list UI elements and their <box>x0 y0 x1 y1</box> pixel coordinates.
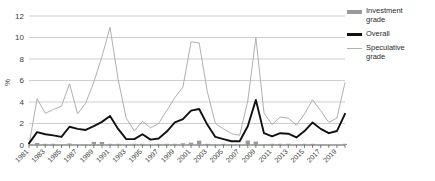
x-axis-tick-label: 1981 <box>14 148 30 164</box>
legend-item-investment-grade[interactable]: Investmentgrade <box>347 6 433 24</box>
data-bar <box>173 144 177 145</box>
x-axis-tick-label: 1997 <box>143 148 159 164</box>
chart-legend: Investmentgrade Overall Speculativegrade <box>347 6 433 66</box>
y-axis-tick-label: 2 <box>20 119 25 128</box>
x-axis-tick-label: 1985 <box>46 148 62 164</box>
data-bar <box>132 144 136 145</box>
x-axis-tick-label: 1995 <box>127 148 143 164</box>
x-axis-tick-label: 1993 <box>111 148 127 164</box>
data-bar <box>246 140 250 145</box>
x-axis-tick-label: 1989 <box>79 148 95 164</box>
x-axis-tick-label: 2003 <box>192 148 208 164</box>
legend-text-line1: Overall <box>366 29 390 38</box>
data-bar <box>156 144 160 145</box>
legend-text-line2: grade <box>366 15 385 24</box>
data-bar <box>343 144 347 145</box>
x-axis-tick-label: 2001 <box>176 148 192 164</box>
data-bar <box>205 144 209 145</box>
investment-grade-bars <box>35 140 347 145</box>
data-bar <box>92 142 96 145</box>
x-axis-tick-label: 2015 <box>289 148 305 164</box>
data-bar <box>100 142 104 145</box>
legend-item-speculative-grade[interactable]: Speculativegrade <box>347 43 433 61</box>
data-bar <box>108 144 112 145</box>
data-bar <box>302 144 306 145</box>
x-axis-tick-label: 1983 <box>30 148 46 164</box>
data-bar <box>270 144 274 145</box>
legend-item-overall[interactable]: Overall <box>347 29 433 38</box>
data-bar <box>181 143 185 145</box>
data-bar <box>35 143 39 145</box>
data-bar <box>43 144 47 145</box>
legend-label-speculative-grade: Speculativegrade <box>366 43 405 61</box>
x-axis-tick-label: 2017 <box>305 148 321 164</box>
legend-text-line2: grade <box>366 52 385 61</box>
y-axis-tick-label: 12 <box>15 12 24 21</box>
x-axis-tick-label: 1987 <box>62 148 78 164</box>
legend-text-line1: Speculative <box>366 43 405 52</box>
data-bar <box>286 144 290 145</box>
x-axis-tick-label: 2011 <box>257 148 273 164</box>
x-axis-tick-label: 1991 <box>95 148 111 164</box>
y-axis-tick-label: 4 <box>20 98 25 107</box>
speculative-grade-swatch-icon <box>347 48 362 49</box>
y-axis-tick-label: 10 <box>15 33 24 42</box>
x-axis-tick-label: 1999 <box>160 148 176 164</box>
chart-container: 024681012%198119831985198719891991199319… <box>0 0 435 181</box>
data-bar <box>116 144 120 145</box>
overall-line <box>29 100 345 144</box>
data-bar <box>254 142 258 145</box>
x-axis-tick-label: 2013 <box>273 148 289 164</box>
overall-swatch-icon <box>347 33 362 36</box>
x-axis-tick-label: 2009 <box>241 148 257 164</box>
legend-label-investment-grade: Investmentgrade <box>366 6 403 24</box>
y-axis-title: % <box>3 79 12 86</box>
legend-label-overall: Overall <box>366 29 390 38</box>
investment-grade-swatch-icon <box>347 10 362 14</box>
x-axis-tick-label: 2005 <box>208 148 224 164</box>
legend-text-line1: Investment <box>366 6 403 15</box>
data-bar <box>310 144 314 145</box>
data-bar <box>165 144 169 145</box>
y-axis-tick-label: 8 <box>20 55 25 64</box>
x-axis-tick-label: 2019 <box>322 148 338 164</box>
data-bar <box>140 144 144 145</box>
data-bar <box>278 144 282 145</box>
y-axis-tick-label: 6 <box>20 76 25 85</box>
x-axis-tick-label: 2007 <box>224 148 240 164</box>
data-bar <box>221 144 225 145</box>
data-bar <box>197 141 201 145</box>
data-bar <box>51 144 55 145</box>
data-bar <box>67 143 71 145</box>
data-bar <box>189 143 193 145</box>
speculative-grade-line <box>29 27 345 145</box>
